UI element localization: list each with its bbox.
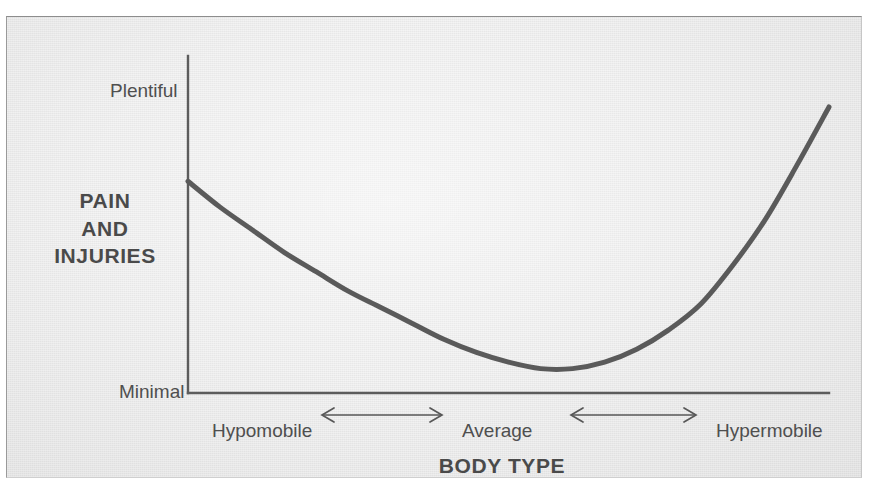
y-tick-label-minimal: Minimal [119,382,184,401]
y-axis-title-line-3: INJURIES [21,242,189,270]
x-tick-label-hypermobile: Hypermobile [716,421,823,440]
y-axis-title: PAIN AND INJURIES [21,187,189,270]
y-tick-label-plentiful: Plentiful [110,81,178,100]
x-tick-label-hypomobile: Hypomobile [212,421,312,440]
x-tick-label-average: Average [462,421,532,440]
y-axis-title-line-2: AND [21,215,189,243]
pain-injuries-curve [188,107,829,369]
hypomobile-to-average-arrow [322,408,442,422]
x-axis-title: BODY TYPE [392,455,612,476]
figure: Plentiful Minimal PAIN AND INJURIES Hypo… [0,0,869,494]
y-axis-title-line-1: PAIN [21,187,189,215]
scanned-chart-panel: Plentiful Minimal PAIN AND INJURIES Hypo… [6,16,862,478]
average-to-hypermobile-arrow [571,408,696,422]
